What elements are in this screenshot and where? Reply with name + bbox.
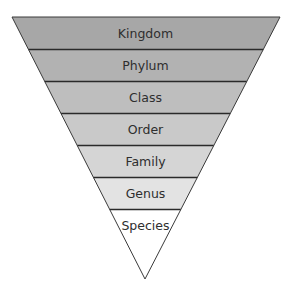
- level-label-kingdom: Kingdom: [118, 26, 173, 41]
- level-label-class: Class: [129, 90, 162, 105]
- taxonomy-pyramid: Kingdom Phylum Class Order Family Genus …: [0, 0, 291, 294]
- level-label-genus: Genus: [126, 186, 166, 201]
- level-label-phylum: Phylum: [122, 58, 168, 73]
- level-label-family: Family: [125, 154, 166, 169]
- level-label-order: Order: [128, 122, 164, 137]
- pyramid-bands: [12, 17, 280, 279]
- level-label-species: Species: [121, 218, 169, 233]
